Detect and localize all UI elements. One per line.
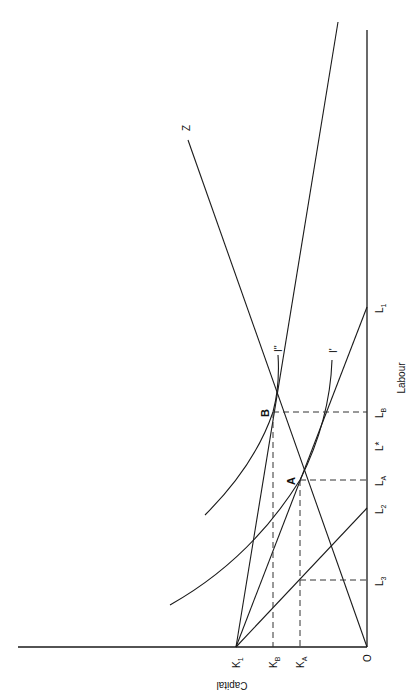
- labour-axis-label: Labour: [396, 362, 407, 394]
- capital-axis-label: Capital: [216, 680, 247, 691]
- tick-l3: L3: [374, 576, 387, 586]
- tick-l1: L1: [374, 303, 387, 313]
- tick-k1: K1: [231, 657, 244, 668]
- point-b-label: B: [259, 409, 271, 417]
- origin-label: O: [362, 654, 373, 662]
- point-a-label: A: [285, 477, 297, 485]
- label-z: Z: [181, 125, 192, 131]
- line-k1-b: [236, 22, 338, 647]
- isoquant-i-prime: [170, 360, 332, 605]
- isoquant-i-double-prime: [205, 355, 278, 515]
- tick-lb: LB: [374, 407, 387, 418]
- tick-la: LA: [374, 475, 387, 486]
- isoquant-diagram: K1 KB KA O Capital L3 L2 LA L* LB L1 Lab…: [0, 0, 410, 698]
- tick-kb: KB: [268, 656, 281, 668]
- label-i-double-prime: I'': [273, 345, 284, 352]
- label-i-prime: I': [328, 348, 339, 353]
- tick-ka: KA: [295, 656, 308, 668]
- tick-l2: L2: [374, 504, 387, 514]
- tick-lstar: L*: [374, 441, 385, 451]
